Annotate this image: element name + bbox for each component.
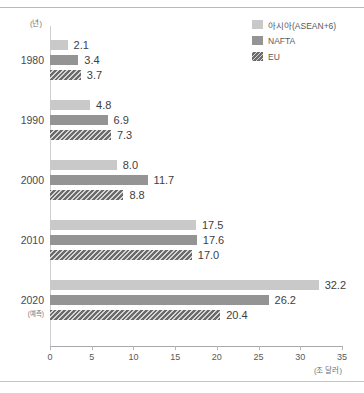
bar-value-label: 8.8: [129, 189, 144, 201]
x-tick-mark: [50, 346, 51, 350]
x-tick-label: 35: [337, 352, 347, 362]
y-category-label: 2000: [21, 174, 44, 186]
bar: [50, 190, 123, 200]
bar-value-label: 17.5: [202, 219, 223, 231]
legend-swatch-icon: [252, 36, 263, 45]
x-tick-label: 0: [47, 352, 52, 362]
bar: [50, 310, 220, 320]
bar-value-label: 6.9: [114, 114, 129, 126]
bar: [50, 250, 192, 260]
x-tick-label: 5: [89, 352, 94, 362]
legend-swatch-icon: [252, 52, 263, 61]
bar-value-label: 8.0: [123, 159, 138, 171]
bar: [50, 130, 111, 140]
x-tick-mark: [217, 346, 218, 350]
x-tick-label: 30: [295, 352, 305, 362]
legend-item: EU: [252, 50, 336, 63]
y-axis-unit-label: (년): [30, 17, 42, 28]
bar: [50, 100, 90, 110]
x-tick-mark: [92, 346, 93, 350]
x-tick-label: 10: [128, 352, 138, 362]
chart-legend: 아시아(ASEAN+6)NAFTAEU: [252, 18, 336, 66]
x-tick-label: 15: [170, 352, 180, 362]
y-category-label: 2010: [21, 234, 44, 246]
bar-value-label: 2.1: [74, 39, 89, 51]
bar-value-label: 3.4: [84, 54, 99, 66]
bar: [50, 55, 78, 65]
legend-item: NAFTA: [252, 34, 336, 47]
x-tick-mark: [133, 346, 134, 350]
bar: [50, 235, 197, 245]
x-tick-mark: [259, 346, 260, 350]
chart-figure: (년) 05101520253035 2.13.43.74.86.97.38.0…: [0, 0, 364, 393]
bar-value-label: 7.3: [117, 129, 132, 141]
legend-item-label: 아시아(ASEAN+6): [268, 19, 336, 31]
bar-value-label: 26.2: [275, 294, 296, 306]
bar-value-label: 4.8: [96, 99, 111, 111]
y-category-label: 2020: [21, 294, 44, 306]
bar: [50, 220, 196, 230]
bar: [50, 175, 148, 185]
bar-value-label: 17.6: [203, 234, 224, 246]
x-tick-mark: [175, 346, 176, 350]
y-category-sublabel: (예측): [28, 308, 44, 318]
legend-swatch-icon: [252, 20, 263, 29]
legend-item-label: EU: [268, 52, 280, 62]
bar-value-label: 20.4: [226, 309, 247, 321]
x-axis-line: [50, 346, 342, 347]
bar: [50, 40, 68, 50]
bar: [50, 115, 108, 125]
x-axis-unit-label: (조 달러): [314, 364, 342, 375]
bar: [50, 160, 117, 170]
y-category-label: 1990: [21, 114, 44, 126]
bar: [50, 280, 319, 290]
bar: [50, 295, 269, 305]
bar-value-label: 11.7: [154, 174, 175, 186]
legend-item: 아시아(ASEAN+6): [252, 18, 336, 31]
bar: [50, 70, 81, 80]
bar-value-label: 17.0: [198, 249, 219, 261]
x-tick-label: 20: [212, 352, 222, 362]
bar-value-label: 3.7: [87, 69, 102, 81]
x-tick-mark: [342, 346, 343, 350]
y-category-label: 1980: [21, 54, 44, 66]
x-tick-mark: [300, 346, 301, 350]
legend-item-label: NAFTA: [268, 36, 295, 46]
bar-value-label: 32.2: [325, 279, 346, 291]
x-tick-label: 25: [254, 352, 264, 362]
